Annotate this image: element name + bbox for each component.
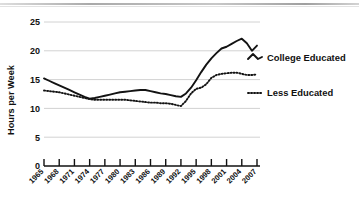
y-axis-tick-label: 25 — [30, 17, 40, 27]
x-axis-tick-label: 2004 — [225, 167, 244, 186]
x-axis-tick-label: 1986 — [134, 167, 152, 185]
x-axis-tick-label: 1998 — [194, 167, 212, 185]
legend: College EducatedLess Educated — [248, 52, 346, 98]
x-axis-tick-label: 1992 — [164, 167, 182, 185]
y-axis-tick-label: 5 — [35, 133, 40, 143]
legend-label: College Educated — [267, 52, 346, 63]
series-line-less-educated — [44, 73, 257, 106]
legend-sample-solid — [248, 54, 262, 59]
x-axis-tick-label: 1989 — [149, 167, 167, 185]
chart-canvas: 0510152025 Hours per Week 19651968197119… — [0, 0, 359, 212]
y-axis-tick-label: 15 — [30, 75, 40, 85]
x-axis-tick-labels: 1965196819711974197719801983198619891992… — [27, 167, 258, 186]
x-axis-tick-label: 2007 — [240, 167, 258, 185]
x-axis-tick-label: 1995 — [179, 167, 198, 186]
y-axis-tick-label: 10 — [30, 104, 40, 114]
series-line-college-educated — [44, 39, 257, 99]
gridlines — [44, 22, 260, 137]
x-axis-tick-label: 2001 — [210, 167, 229, 186]
x-axis-tick-label: 1983 — [118, 167, 136, 185]
x-axis-tick-label: 1977 — [88, 167, 106, 185]
x-axis-tick-label: 1980 — [103, 167, 121, 185]
x-axis-tick-label: 1971 — [58, 167, 77, 186]
x-axis-tick-label: 1974 — [73, 167, 92, 186]
x-axis-tick-label: 1965 — [27, 167, 46, 186]
y-axis-title: Hours per Week — [6, 64, 16, 135]
legend-label: Less Educated — [267, 87, 333, 98]
y-axis-tick-label: 20 — [30, 46, 40, 56]
line-chart: 0510152025 Hours per Week 19651968197119… — [0, 0, 359, 212]
y-axis-title-text: Hours per Week — [6, 64, 16, 135]
x-axis-tick-label: 1968 — [42, 167, 60, 185]
y-axis-tick-labels: 0510152025 — [30, 17, 40, 171]
x-axis-tickmarks — [44, 159, 257, 166]
